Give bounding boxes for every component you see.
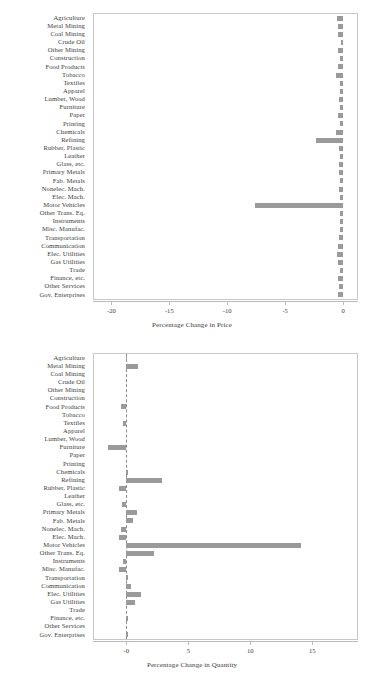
bar <box>338 113 343 118</box>
bar <box>339 162 343 167</box>
bar <box>340 268 343 273</box>
category-label: Agriculture <box>54 15 86 22</box>
category-label: Fab. Metals <box>53 178 85 185</box>
category-label: Elec. Utilities <box>47 591 85 598</box>
axis-line <box>93 641 358 642</box>
bar <box>337 252 343 257</box>
quantity-plot-frame <box>93 353 358 640</box>
category-label: Gas Utilities <box>51 259 85 266</box>
category-label: Rubber, Plastic <box>43 485 85 492</box>
category-label: Instruments <box>53 558 85 565</box>
bar <box>339 284 343 289</box>
bar <box>126 584 131 589</box>
bar <box>255 203 343 208</box>
axis-tick <box>188 641 189 645</box>
category-label: Other Mining <box>48 387 85 394</box>
bar <box>340 178 343 183</box>
bar <box>339 187 343 192</box>
bar <box>126 600 135 605</box>
bar <box>340 154 343 159</box>
bar <box>340 227 343 232</box>
bar <box>126 510 137 515</box>
bar <box>340 56 343 61</box>
category-label: Other Services <box>45 283 85 290</box>
category-label: Primary Metals <box>43 169 85 176</box>
bar <box>338 260 343 265</box>
axis-tick-label: -5 <box>282 307 288 314</box>
category-label: Leather <box>64 493 85 500</box>
price-category-labels: AgricultureMetal MiningCoal MiningCrude … <box>0 13 88 300</box>
category-label: Elec. Mach. <box>52 194 85 201</box>
category-label: Chemicals <box>56 469 85 476</box>
bar <box>126 518 133 523</box>
category-label: Gov. Enterprises <box>40 632 86 639</box>
bar <box>338 64 343 69</box>
category-label: Trade <box>69 607 85 614</box>
bar <box>126 632 128 637</box>
bar <box>126 592 140 597</box>
bar <box>126 478 161 483</box>
category-label: Glass, etc. <box>57 161 85 168</box>
category-label: Paper <box>69 452 85 459</box>
bar <box>340 105 343 110</box>
category-label: Nonelec. Mach. <box>42 526 85 533</box>
axis-tick <box>227 301 228 305</box>
category-label: Fab. Metals <box>53 518 85 525</box>
bar <box>338 48 343 53</box>
category-label: Glass, etc. <box>57 501 85 508</box>
bar <box>339 235 343 240</box>
bar <box>339 170 343 175</box>
bar <box>340 211 343 216</box>
category-label: Gas Utilities <box>51 599 85 606</box>
category-label: Construction <box>50 55 85 62</box>
category-label: Elec. Mach. <box>52 534 85 541</box>
axis-tick-label: 5 <box>187 647 190 654</box>
category-label: Construction <box>50 395 85 402</box>
bar <box>338 276 343 281</box>
category-label: Motor Vehicles <box>43 202 85 209</box>
bar <box>338 32 343 37</box>
bar <box>126 616 127 621</box>
bar <box>339 146 343 151</box>
bar <box>123 421 127 426</box>
category-label: Furniture <box>60 104 85 111</box>
category-label: Lumber, Wood <box>44 96 85 103</box>
category-label: Motor Vehicles <box>43 542 85 549</box>
chart-panel-quantity: AgricultureMetal MiningCoal MiningCrude … <box>0 340 384 681</box>
category-label: Finance, etc. <box>50 615 85 622</box>
bar <box>316 138 343 143</box>
category-label: Textiles <box>63 420 85 427</box>
bar <box>126 543 301 548</box>
bar <box>126 364 138 369</box>
axis-line <box>93 301 358 302</box>
price-axis-title: Percentage Change in Price <box>0 321 384 329</box>
category-label: Leather <box>64 153 85 160</box>
bar <box>336 130 343 135</box>
quantity-axis-title: Percentage Change in Quantity <box>0 661 384 669</box>
category-label: Rubber, Plastic <box>43 145 85 152</box>
category-label: Finance, etc. <box>50 275 85 282</box>
category-label: Metal Mining <box>47 363 85 370</box>
category-label: Trade <box>69 267 85 274</box>
category-label: Coal Mining <box>50 371 85 378</box>
bar <box>338 292 343 297</box>
category-label: Communication <box>41 243 85 250</box>
bar <box>340 81 343 86</box>
bar <box>339 97 343 102</box>
axis-tick-label: 15 <box>309 647 316 654</box>
category-label: Misc. Manufac. <box>42 566 85 573</box>
axis-tick <box>126 641 127 645</box>
quantity-category-labels: AgricultureMetal MiningCoal MiningCrude … <box>0 353 88 640</box>
category-label: Coal Mining <box>50 31 85 38</box>
category-label: Instruments <box>53 218 85 225</box>
axis-tick <box>312 641 313 645</box>
price-plot-frame <box>93 13 358 300</box>
category-label: Transportation <box>45 575 85 582</box>
axis-tick-label: 10 <box>247 647 254 654</box>
category-label: Tobacco <box>62 72 85 79</box>
category-label: Apparel <box>63 88 85 95</box>
bar <box>337 16 343 21</box>
axis-tick <box>111 301 112 305</box>
bar <box>126 551 154 556</box>
category-label: Gov. Enterprises <box>40 292 86 299</box>
